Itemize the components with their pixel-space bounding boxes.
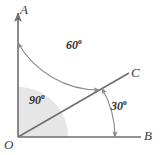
angle-diagram-figure: A B C O 90o 60o 30o xyxy=(0,0,160,155)
arc-60-degrees xyxy=(18,43,99,90)
angle-60-unit: o xyxy=(78,37,82,46)
point-label-b: B xyxy=(144,129,152,142)
angle-90-unit: o xyxy=(41,92,45,101)
angle-30-unit: o xyxy=(123,98,127,107)
angle-label-30: 30o xyxy=(111,99,127,112)
angle-60-value: 60 xyxy=(66,38,78,52)
angle-30-value: 30 xyxy=(111,99,123,113)
angle-label-90: 90o xyxy=(29,93,45,106)
point-label-o: O xyxy=(4,138,13,151)
angle-label-60: 60o xyxy=(66,38,82,51)
point-label-a: A xyxy=(20,3,28,16)
angle-90-value: 90 xyxy=(29,93,41,107)
point-label-c: C xyxy=(131,66,140,79)
